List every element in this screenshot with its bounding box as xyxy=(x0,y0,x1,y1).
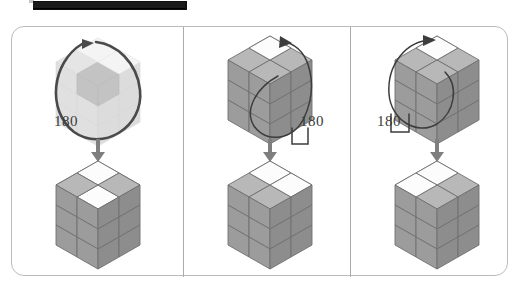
cube-ghosted-xray xyxy=(36,32,160,148)
rotation-label-180: 180 xyxy=(300,113,324,130)
stage-before: 180 xyxy=(351,29,522,151)
cube-solid-start xyxy=(375,32,499,148)
stage-before: 180 xyxy=(12,29,183,151)
figure-frame: 180 xyxy=(11,26,508,276)
panel-transparent-cube: 180 xyxy=(12,27,183,277)
cube-solid-result xyxy=(208,157,332,273)
cube-solid-result xyxy=(36,157,160,273)
stage-before: 180 xyxy=(184,29,355,151)
panel-solid-cube-left-loop: 180 xyxy=(351,27,522,277)
rotation-label-180: 180 xyxy=(377,113,401,130)
cube-solid-result xyxy=(375,157,499,273)
stage-after xyxy=(351,155,522,275)
redacted-caption-bar xyxy=(33,1,187,10)
stage-after xyxy=(12,155,183,275)
cube-solid-start xyxy=(208,32,332,148)
stage-after xyxy=(184,155,355,275)
rotation-label-180: 180 xyxy=(54,113,78,130)
panel-solid-cube-right-loop: 180 xyxy=(184,27,355,277)
redacted-caption-bar-inner xyxy=(33,2,185,9)
